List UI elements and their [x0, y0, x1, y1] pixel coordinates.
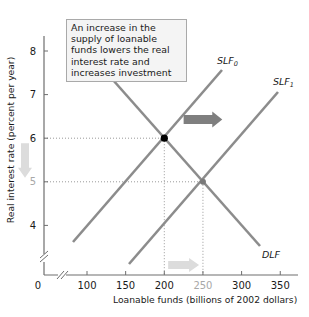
x-tick-label: 0 [35, 280, 41, 291]
curve-slf0 [73, 70, 222, 242]
equilibrium-new-marker [200, 179, 206, 185]
curve-dlf [113, 80, 260, 246]
label-slf0: SLF0 [217, 55, 238, 68]
x-tick-label: 100 [77, 280, 96, 291]
arrow-supply-shift-icon [184, 111, 223, 127]
y-tick-label: 7 [30, 89, 36, 100]
x-tick-label: 200 [155, 280, 174, 291]
label-dlf: DLF [262, 249, 281, 260]
y-tick-label: 8 [30, 46, 36, 57]
equilibrium-initial-marker [161, 135, 168, 142]
y-axis-label: Real interest rate (percent per year) [5, 57, 16, 223]
x-tick-label: 350 [271, 280, 290, 291]
y-tick-label: 5 [30, 176, 36, 187]
annotation-box: An increase in the supply of loanable fu… [66, 19, 187, 82]
arrow-rate-falls-icon [18, 143, 32, 178]
x-tick-label: 300 [232, 280, 251, 291]
x-tick-label: 150 [116, 280, 135, 291]
x-tick-label: 250 [193, 280, 212, 291]
arrow-funds-increase-icon [168, 258, 199, 272]
x-axis-label: Loanable funds (billions of 2002 dollars… [113, 294, 297, 305]
label-slf1: SLF1 [273, 76, 294, 89]
y-tick-label: 4 [30, 220, 36, 231]
y-tick-label: 6 [30, 133, 36, 144]
